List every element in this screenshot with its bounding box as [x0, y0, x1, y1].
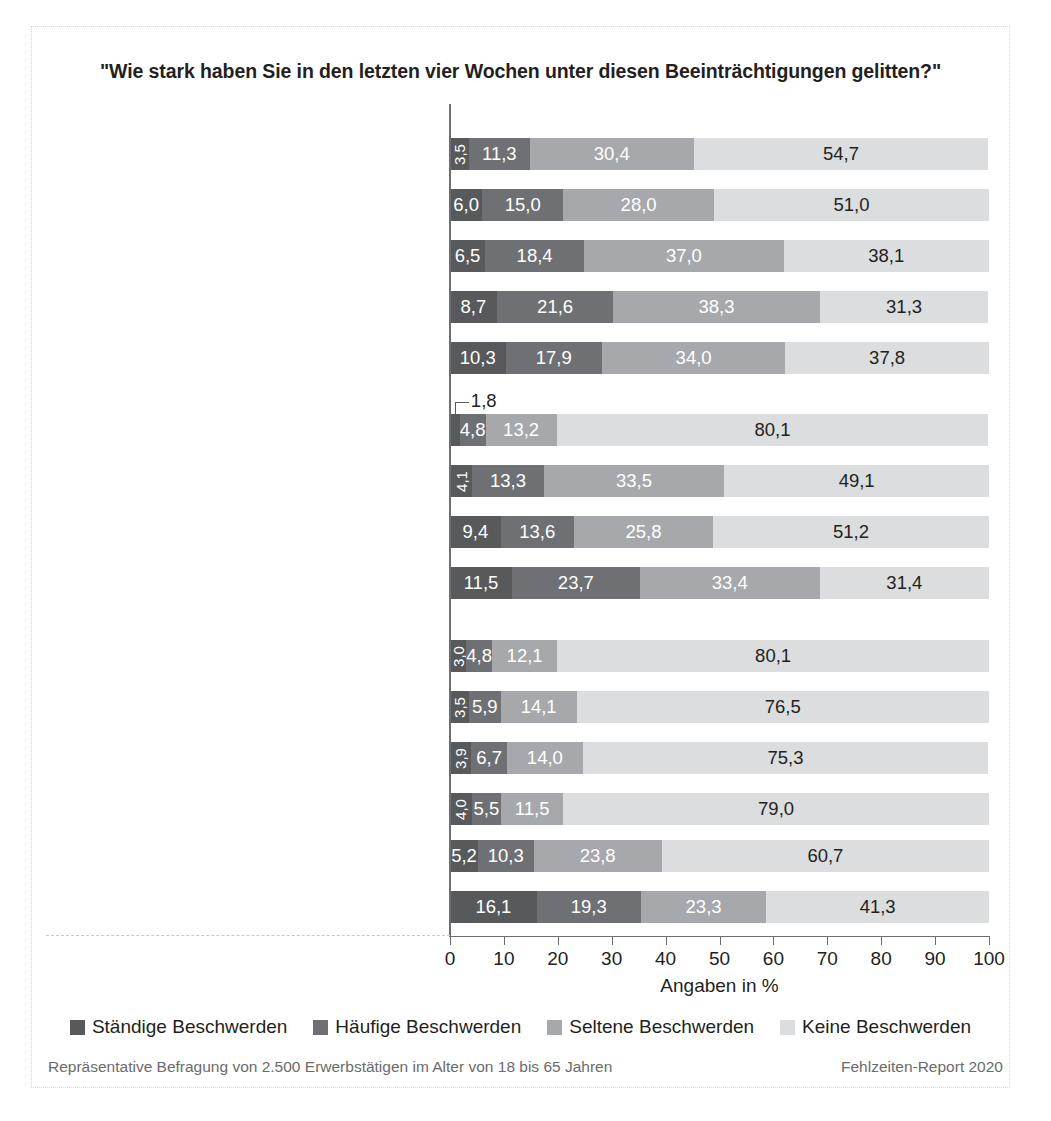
x-axis-tick [989, 936, 990, 945]
x-axis-tick [720, 936, 721, 945]
stacked-bar: 3,96,714,075,3 [450, 742, 988, 774]
bar-value-label: 31,4 [886, 572, 922, 594]
stacked-bar: 6,015,028,051,0 [450, 189, 989, 221]
callout-leader-horizontal [455, 402, 469, 403]
bar-value-label: 31,3 [886, 296, 922, 318]
callout-leader-vertical [455, 402, 456, 414]
stacked-bar: 8,721,638,331,3 [450, 291, 988, 323]
bar-segment: 41,3 [766, 891, 989, 923]
bar-value-label: 11,3 [482, 143, 517, 165]
x-axis-tick-label: 30 [601, 948, 622, 970]
bar-value-label: 25,8 [625, 521, 661, 543]
bar-value-label: 14,0 [527, 747, 563, 769]
bar-value-label: 19,3 [571, 896, 607, 918]
bar-value-label: 6,0 [453, 194, 479, 216]
x-axis-tick [773, 936, 774, 945]
stacked-bar: 4,813,280,1 [450, 414, 988, 446]
y-axis-line [449, 104, 451, 936]
bar-value-label: 8,7 [461, 296, 487, 318]
bar-segment: 3,0 [450, 640, 466, 672]
bar-value-label: 49,1 [839, 470, 875, 492]
bar-value-label: 34,0 [676, 347, 712, 369]
bar-segment: 25,8 [574, 516, 713, 548]
bar-segment: 76,5 [577, 691, 989, 723]
bar-value-label: 9,4 [462, 521, 488, 543]
bar-segment: 19,3 [537, 891, 641, 923]
bar-segment: 30,4 [530, 138, 694, 170]
legend-item[interactable]: Keine Beschwerden [780, 1016, 971, 1038]
x-axis-tick-label: 40 [655, 948, 676, 970]
bar-value-label: 12,1 [507, 645, 543, 667]
bar-value-label: 3,9 [453, 748, 468, 769]
bar-segment: 11,5 [501, 793, 563, 825]
bar-value-label: 10,3 [460, 347, 496, 369]
bar-segment: 80,1 [557, 414, 989, 446]
legend-item[interactable]: Ständige Beschwerden [70, 1016, 287, 1038]
bar-segment: 16,1 [450, 891, 537, 923]
bar-value-label: 6,5 [455, 245, 481, 267]
stacked-bar: 5,210,323,860,7 [450, 840, 989, 872]
bar-value-label: 51,2 [833, 521, 869, 543]
x-axis-tick-label: 100 [973, 948, 1005, 970]
stacked-bar: 9,413,625,851,2 [450, 516, 989, 548]
bar-segment: 3,5 [450, 138, 469, 170]
stacked-bar: 11,523,733,431,4 [450, 567, 989, 599]
bar-value-label: 5,2 [451, 845, 477, 867]
bar-value-label: 33,4 [712, 572, 748, 594]
axis-dashed-separator [46, 935, 450, 936]
legend-item[interactable]: Seltene Beschwerden [547, 1016, 754, 1038]
legend-label: Ständige Beschwerden [92, 1016, 287, 1038]
legend-label: Keine Beschwerden [802, 1016, 971, 1038]
bar-segment: 21,6 [497, 291, 613, 323]
bar-segment: 8,7 [450, 291, 497, 323]
figure-border [31, 26, 1010, 1088]
bar-segment: 33,5 [544, 465, 725, 497]
legend-swatch-icon [780, 1020, 795, 1035]
bar-segment: 31,4 [820, 567, 989, 599]
stacked-bar: 10,317,934,037,8 [450, 342, 989, 374]
bar-value-label: 10,3 [488, 845, 524, 867]
bar-value-label: 51,0 [834, 194, 870, 216]
stacked-bar: 16,119,323,341,3 [450, 891, 989, 923]
chart-title: "Wie stark haben Sie in den letzten vier… [31, 60, 1010, 83]
bar-segment: 17,9 [506, 342, 602, 374]
bar-segment: 38,3 [613, 291, 819, 323]
bar-value-label: 3,0 [451, 646, 466, 667]
x-axis-tick-label: 80 [871, 948, 892, 970]
bar-value-label: 13,3 [490, 470, 526, 492]
bar-segment: 11,3 [469, 138, 530, 170]
bar-value-label: 16,1 [475, 896, 511, 918]
bar-value-label: 5,5 [474, 798, 500, 820]
bar-value-label: 6,7 [476, 747, 502, 769]
bar-segment: 5,2 [450, 840, 478, 872]
bar-value-label: 54,7 [823, 143, 859, 165]
bar-value-label: 21,6 [537, 296, 573, 318]
legend-item[interactable]: Häufige Beschwerden [313, 1016, 521, 1038]
bar-segment: 6,0 [450, 189, 482, 221]
bar-value-label: 4,8 [466, 645, 492, 667]
bar-segment: 3,5 [450, 691, 469, 723]
bar-value-label: 13,2 [503, 419, 539, 441]
bar-segment: 4,8 [460, 414, 486, 446]
x-axis-tick-label: 20 [547, 948, 568, 970]
stacked-bar: 3,04,812,180,1 [450, 640, 989, 672]
bar-value-label: 28,0 [621, 194, 657, 216]
bar-segment: 5,5 [472, 793, 502, 825]
x-axis-title: Angaben in % [449, 975, 990, 997]
bar-segment: 14,1 [501, 691, 577, 723]
bar-value-label: 30,4 [594, 143, 630, 165]
x-axis-tick [666, 936, 667, 945]
bar-segment: 37,0 [584, 240, 783, 272]
bar-value-label: 18,4 [517, 245, 553, 267]
bar-segment: 4,0 [450, 793, 472, 825]
bar-segment: 18,4 [485, 240, 584, 272]
bar-segment: 49,1 [724, 465, 989, 497]
bar-value-label: 4,8 [460, 419, 486, 441]
bar-segment: 23,7 [512, 567, 640, 599]
bar-segment: 6,5 [450, 240, 485, 272]
bar-value-label: 13,6 [519, 521, 555, 543]
x-axis-tick-label: 50 [709, 948, 730, 970]
bar-value-label: 3,5 [452, 144, 467, 165]
x-axis-tick [450, 936, 451, 945]
stacked-bar: 4,113,333,549,1 [450, 465, 989, 497]
